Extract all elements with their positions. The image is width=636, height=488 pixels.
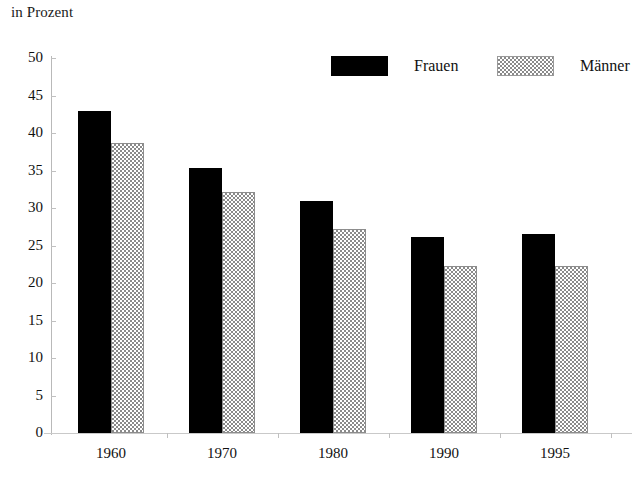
y-tick-mark [51,96,56,97]
x-tick-mark [500,433,501,438]
x-tick-label-1960: 1960 [56,444,166,462]
y-tick-mark [51,321,56,322]
x-tick-label-1980: 1980 [278,444,388,462]
y-tick-label: 25 [9,238,43,253]
y-tick-label: 40 [9,125,43,140]
bar-frauen-1995 [522,234,555,434]
bar-frauen-1980 [300,201,333,434]
y-tick-mark [51,246,56,247]
y-tick-label: 20 [9,275,43,290]
y-tick-label: 45 [9,88,43,103]
bar-frauen-1960 [78,111,111,434]
y-tick-mark [51,283,56,284]
bar-manner-1995 [555,266,588,433]
y-tick-label: 5 [9,388,43,403]
legend-swatch-maenner-icon [497,56,554,76]
bar-manner-1970 [222,192,255,433]
bar-manner-1980 [333,229,366,433]
bar-manner-1990 [444,266,477,433]
legend-label-frauen: Frauen [414,57,458,75]
legend-label-maenner: Männer [580,57,630,75]
y-tick-mark [51,358,56,359]
legend-swatch-frauen-icon [331,56,388,76]
y-tick-mark [51,396,56,397]
bar-frauen-1970 [189,168,222,434]
y-tick-label: 50 [9,50,43,65]
x-tick-mark [389,433,390,438]
x-axis-line [44,433,632,434]
bar-manner-1960 [111,143,144,433]
y-tick-label: 10 [9,350,43,365]
y-tick-mark [51,133,56,134]
y-tick-mark [51,58,56,59]
y-axis-tick-labels: 50454035302520151050 [0,0,43,488]
y-tick-label: 35 [9,163,43,178]
y-tick-mark [51,171,56,172]
y-tick-label: 0 [9,425,43,440]
y-tick-label: 30 [9,200,43,215]
x-tick-label-1970: 1970 [167,444,277,462]
x-tick-mark [167,433,168,438]
x-tick-mark [611,433,612,438]
x-tick-label-1990: 1990 [389,444,499,462]
legend-item-frauen[interactable]: Frauen [331,54,458,78]
y-tick-label: 15 [9,313,43,328]
x-tick-label-1995: 1995 [500,444,610,462]
x-tick-mark [278,433,279,438]
bar-frauen-1990 [411,237,444,433]
bar-chart: in Prozent 50454035302520151050 19601970… [0,0,636,488]
legend-item-maenner[interactable]: Männer [497,54,630,78]
y-tick-mark [51,208,56,209]
